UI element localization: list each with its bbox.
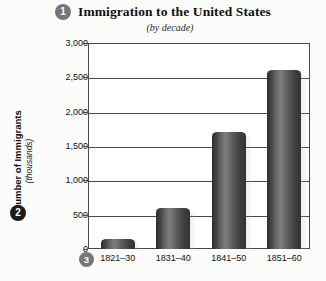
- y-axis-tick-mark: [83, 112, 88, 113]
- x-axis-tick-label: 1821–30: [90, 253, 146, 263]
- chart-header: 1 Immigration to the United States (by d…: [0, 4, 326, 33]
- y-axis-tick-mark: [83, 43, 88, 44]
- bar-1841–50: [212, 132, 246, 249]
- y-axis-tick-label: 2,000: [42, 107, 88, 117]
- y-axis-title-text: Number of Immigrants: [12, 110, 23, 211]
- y-axis-tick-label: 2,500: [42, 72, 88, 82]
- x-axis-labels: 1821–301831–401841–501851–60: [88, 253, 310, 269]
- chart-subtitle: (by decade): [0, 22, 326, 33]
- x-axis-tick-label: 1831–40: [145, 253, 201, 263]
- y-axis-tick-mark: [83, 77, 88, 78]
- y-axis-tick-mark: [83, 249, 88, 250]
- y-axis-tick-label: 500: [42, 210, 88, 220]
- bar-1831–40: [156, 208, 190, 249]
- y-axis-tick-mark: [83, 215, 88, 216]
- title-row: 1 Immigration to the United States: [0, 4, 326, 20]
- y-axis-tick-mark: [83, 146, 88, 147]
- x-axis-tick-label: 1841–50: [201, 253, 257, 263]
- bar-1821–30: [101, 239, 135, 249]
- y-axis-tick-mark: [83, 180, 88, 181]
- y-axis-title: Number of Immigrants (thousands): [12, 110, 35, 211]
- y-axis-units-text: (thousands): [24, 110, 35, 211]
- y-axis-tick-label: 1,500: [42, 141, 88, 151]
- bar-1851–60: [267, 70, 301, 249]
- chart-title: Immigration to the United States: [78, 4, 271, 20]
- y-axis-tick-label: 3,000: [42, 38, 88, 48]
- callout-badge-2: 2: [10, 205, 26, 221]
- x-axis-tick-label: 1851–60: [256, 253, 312, 263]
- callout-badge-1: 1: [55, 4, 71, 20]
- y-axis-tick-label: 1,000: [42, 175, 88, 185]
